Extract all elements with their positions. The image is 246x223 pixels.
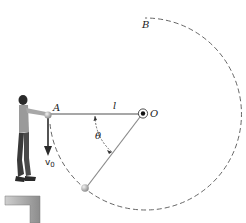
label-v0: v0 xyxy=(45,157,55,169)
person-figure xyxy=(15,95,46,182)
label-theta: θ xyxy=(95,130,101,141)
pivot-o xyxy=(138,109,147,118)
velocity-arrow xyxy=(44,116,52,156)
label-o: O xyxy=(150,108,158,119)
ball-at-a xyxy=(44,111,51,118)
label-b: B xyxy=(141,19,149,30)
ledge xyxy=(5,196,40,223)
label-a: A xyxy=(52,102,60,113)
pendulum-diagram: A l O B θ v0 xyxy=(0,0,246,223)
ball-lower xyxy=(81,184,89,192)
rope-angled xyxy=(86,117,140,188)
label-length: l xyxy=(113,100,116,111)
